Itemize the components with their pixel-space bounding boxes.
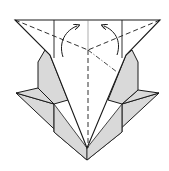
origami-diagram: [0, 0, 169, 171]
diagram-svg: [0, 0, 169, 171]
